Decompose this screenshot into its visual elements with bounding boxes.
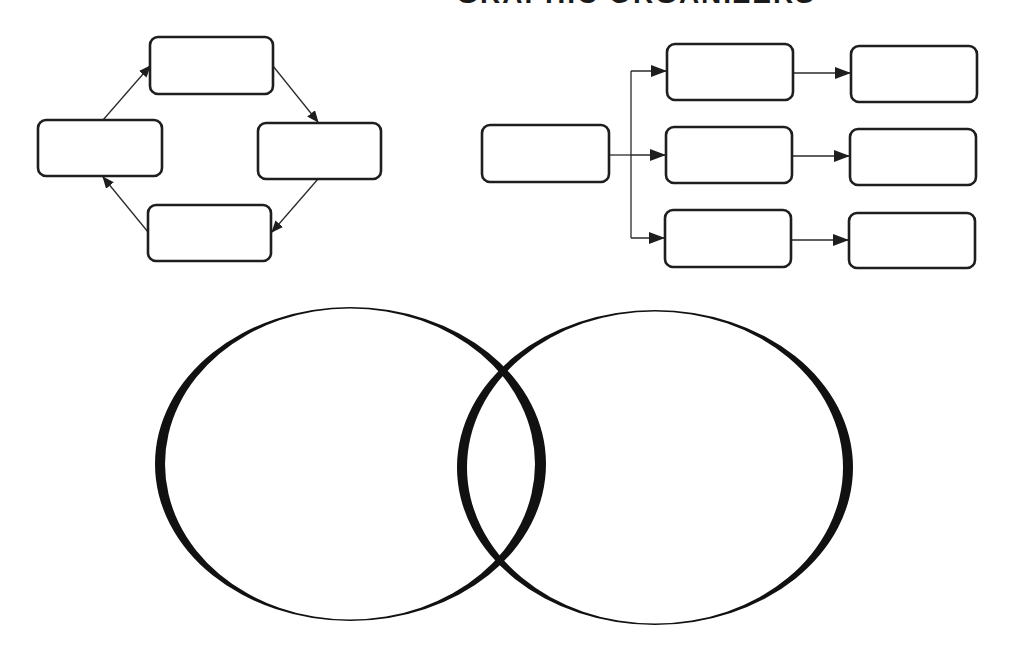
tree-box-branch-1-level-1[interactable] [667, 44, 793, 100]
cycle-diagram [38, 37, 381, 261]
cycle-arrow-right-to-bottom [272, 179, 318, 232]
tree-box-branch-2-level-1[interactable] [666, 127, 792, 183]
tree-box-branch-3-level-2[interactable] [849, 213, 975, 268]
diagram-canvas [0, 0, 1012, 656]
cycle-box-top[interactable] [150, 37, 273, 94]
venn-diagram [155, 307, 853, 625]
cycle-arrow-left-to-top [103, 66, 150, 120]
tree-box-branch-3-level-1[interactable] [665, 210, 791, 267]
tree-box-branch-1-level-2[interactable] [851, 46, 977, 102]
cycle-arrow-bottom-to-left [103, 177, 148, 232]
cycle-box-right[interactable] [258, 123, 381, 179]
tree-box-branch-2-level-2[interactable] [850, 129, 976, 185]
venn-set-a-outline[interactable] [155, 307, 546, 621]
tree-box-root[interactable] [482, 125, 609, 182]
cycle-arrow-top-to-right [273, 66, 318, 122]
tree-diagram [482, 44, 977, 268]
venn-set-b-outline[interactable] [457, 310, 853, 625]
cycle-box-bottom[interactable] [148, 205, 271, 261]
cycle-box-left[interactable] [38, 120, 162, 176]
